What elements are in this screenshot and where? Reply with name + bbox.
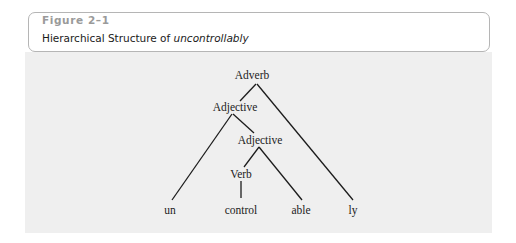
tree-node-able: able: [291, 204, 310, 216]
tree-node-adverb: Adverb: [235, 69, 270, 81]
tree-node-ly: ly: [349, 204, 358, 216]
edge-adjective-adjective: [233, 114, 254, 133]
tree-node-un: un: [164, 204, 176, 216]
tree-node-verb: Verb: [230, 168, 252, 180]
edge-adjective-verb: [244, 147, 259, 167]
edge-adverb-adjective: [240, 84, 256, 101]
edge-adjective-able: [259, 147, 302, 200]
tree-node-adjective-2: Adjective: [238, 134, 283, 146]
tree-node-control: control: [225, 204, 258, 216]
edge-adjective-un: [172, 114, 232, 200]
tree-node-adjective-1: Adjective: [213, 101, 258, 113]
tree-edges: [0, 0, 516, 243]
